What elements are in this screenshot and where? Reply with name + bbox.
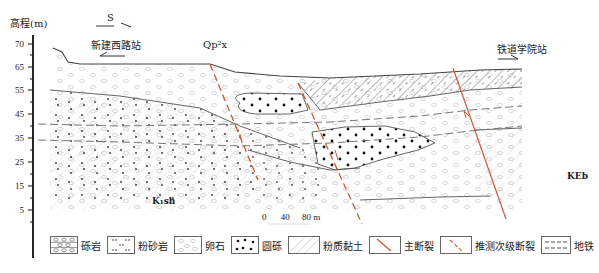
main-fault-swatch: [369, 236, 401, 254]
geological-cross-section: 高程(m) 70 65 55 45 35 25 15 5 S 新建西路站 铁道学…: [0, 0, 599, 273]
scale-80: 80 m: [302, 212, 320, 222]
formation-left: K₁sh: [152, 196, 175, 207]
legend: 砾岩 粉砂岩 卵石 圆砾 粉质黏土: [50, 234, 599, 256]
legend-label: 主断裂: [404, 238, 434, 253]
tick-5: 5: [2, 205, 24, 215]
formation-top: Qp²x: [203, 39, 227, 50]
scale-40: 40: [281, 212, 290, 222]
legend-pebble: 卵石: [174, 236, 228, 254]
metro-swatch: [541, 236, 571, 254]
legend-label: 地铁: [574, 238, 594, 253]
tick-45: 45: [2, 109, 24, 119]
station-left: 新建西路站: [91, 40, 141, 51]
legend-label: 粉砂岩: [138, 238, 168, 253]
tick-65: 65: [2, 62, 24, 72]
tick-70: 70: [2, 39, 24, 49]
conglomerate-swatch: [50, 236, 78, 254]
siltstone-swatch: [107, 236, 135, 254]
legend-silty-clay: 粉质黏土: [288, 236, 366, 254]
legend-label: 卵石: [205, 238, 225, 253]
section-drawing: [0, 0, 599, 273]
legend-conglomerate: 砾岩: [50, 236, 104, 254]
formation-right: KEb: [567, 171, 588, 182]
scale-bar: 0 40 80 m: [262, 212, 320, 222]
scale-0: 0: [262, 212, 267, 222]
legend-label: 推测次级断裂: [475, 238, 535, 253]
axis-title: 高程(m): [10, 18, 47, 29]
legend-label: 圆砾: [262, 238, 282, 253]
legend-siltstone: 粉砂岩: [107, 236, 171, 254]
legend-inferred-fault: 推测次级断裂: [440, 236, 538, 254]
legend-round-gravel: 圆砾: [231, 236, 285, 254]
legend-label: 粉质黏土: [323, 238, 363, 253]
station-right: 铁道学院站: [497, 44, 547, 55]
pebble-swatch: [174, 236, 202, 254]
tick-35: 35: [2, 133, 24, 143]
inferred-fault-swatch: [440, 236, 472, 254]
legend-main-fault: 主断裂: [369, 236, 437, 254]
legend-metro: 地铁: [541, 236, 597, 254]
direction-label: S: [107, 12, 114, 23]
silty-clay-swatch: [288, 236, 320, 254]
tick-25: 25: [2, 157, 24, 167]
round-gravel-swatch: [231, 236, 259, 254]
legend-label: 砾岩: [81, 238, 101, 253]
tick-55: 55: [2, 85, 24, 95]
tick-15: 15: [2, 181, 24, 191]
